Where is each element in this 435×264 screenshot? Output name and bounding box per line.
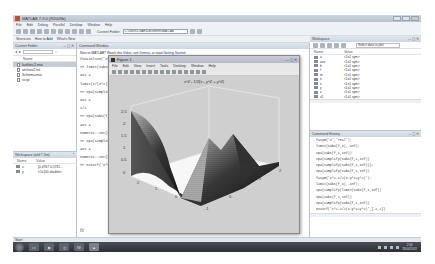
fig-menu-insert[interactable]: Insert <box>146 64 155 68</box>
file-item[interactable]: scrpt <box>13 77 76 82</box>
word-taskbar-icon[interactable]: W <box>74 243 84 251</box>
figure-window[interactable]: Figure 1 — ◻ ✕ File Edit View Insert Too… <box>108 55 300 234</box>
cut-icon[interactable] <box>30 29 35 34</box>
panel-controls[interactable]: → ◻ ✕ <box>408 132 419 136</box>
power-icon[interactable] <box>396 246 399 249</box>
surface-plot[interactable]: x^2 - 1/2(x - y^2 + y^2) <box>109 76 299 233</box>
profiler-icon[interactable] <box>79 29 84 34</box>
zoom-out-icon[interactable] <box>148 70 152 74</box>
pan-icon[interactable] <box>154 70 158 74</box>
fig-menu-file[interactable]: File <box>112 64 118 68</box>
print-icon[interactable] <box>130 70 134 74</box>
shortcut-how-to-add[interactable]: How to Add <box>35 37 53 41</box>
search-icon[interactable]: ⌕ <box>55 50 57 54</box>
column-value[interactable]: Value <box>36 159 45 163</box>
fig-menu-view[interactable]: View <box>134 64 142 68</box>
menu-edit[interactable]: Edit <box>27 23 33 27</box>
new-figure-icon[interactable] <box>112 70 116 74</box>
variable-value: <1x1 sym> <box>344 68 360 72</box>
browser-taskbar-icon[interactable]: ◎ <box>59 243 69 251</box>
open-icon[interactable] <box>118 70 122 74</box>
open-variable-icon[interactable] <box>320 43 325 48</box>
plot-select-dropdown[interactable]: Select data to plot <box>356 43 400 48</box>
variable-name: n <box>320 77 322 81</box>
delete-variable-icon[interactable] <box>341 43 346 48</box>
data-cursor-icon[interactable] <box>166 70 170 74</box>
menu-window[interactable]: Window <box>88 23 100 27</box>
column-value[interactable]: Value <box>344 50 353 54</box>
show-plot-tools-icon[interactable] <box>202 70 206 74</box>
collapse-icon[interactable]: ⌃ <box>72 153 75 157</box>
menu-help[interactable]: Help <box>105 23 112 27</box>
fig-menu-window[interactable]: Window <box>191 64 203 68</box>
new-variable-icon[interactable] <box>313 43 318 48</box>
new-file-icon[interactable] <box>16 29 21 34</box>
undo-icon[interactable] <box>51 29 56 34</box>
network-icon[interactable] <box>384 246 387 249</box>
brush-icon[interactable] <box>172 70 176 74</box>
history-scrollbar[interactable] <box>310 213 421 217</box>
zoom-in-icon[interactable] <box>142 70 146 74</box>
colorbar-icon[interactable] <box>184 70 188 74</box>
figure-title: Figure 1 <box>117 57 132 62</box>
maximize-button[interactable] <box>402 16 410 21</box>
legend-icon[interactable] <box>190 70 194 74</box>
fig-menu-desktop[interactable]: Desktop <box>173 64 186 68</box>
fig-menu-tools[interactable]: Tools <box>160 64 168 68</box>
edit-plot-icon[interactable] <box>136 70 140 74</box>
system-clock[interactable]: 2:04 28/04/2011 <box>402 243 417 251</box>
copy-icon[interactable] <box>37 29 42 34</box>
notification-icon[interactable] <box>378 246 381 249</box>
menu-parallel[interactable]: Parallel <box>53 23 65 27</box>
fig-menu-help[interactable]: Help <box>208 64 215 68</box>
function-browser-icon[interactable]: fx <box>80 227 84 233</box>
menu-desktop[interactable]: Desktop <box>70 23 83 27</box>
column-name[interactable]: Name <box>314 50 344 54</box>
open-file-icon[interactable] <box>23 29 28 34</box>
close-button[interactable] <box>411 16 419 21</box>
back-icon[interactable]: ◂ <box>15 50 17 54</box>
save-workspace-icon[interactable] <box>334 43 339 48</box>
variable-value: <1x1 sym> <box>344 77 360 81</box>
figure-title-bar[interactable]: Figure 1 — ◻ ✕ <box>109 56 299 63</box>
fig-menu-edit[interactable]: Edit <box>123 64 129 68</box>
matlab-taskbar-icon[interactable]: ▲ <box>89 243 99 251</box>
folder-path-field[interactable] <box>23 50 53 54</box>
media-player-taskbar-icon[interactable]: ▶ <box>44 243 54 251</box>
variable-row[interactable]: y <1x101 double> <box>13 169 77 174</box>
current-folder-input[interactable]: C:\Users\CSAR\Documents\MATLAB <box>123 29 188 34</box>
windows-start-orb[interactable] <box>15 243 24 252</box>
variable-value: <1x1 sym> <box>344 86 360 90</box>
panel-controls[interactable]: → ◻ ✕ <box>63 44 74 48</box>
rotate-3d-icon[interactable] <box>160 70 164 74</box>
system-tray: 2:04 28/04/2011 <box>378 243 417 251</box>
paste-icon[interactable] <box>44 29 49 34</box>
figure-window-controls[interactable]: — ◻ ✕ <box>286 58 297 62</box>
panel-controls[interactable]: → ◻ ✕ <box>408 37 419 41</box>
redo-icon[interactable] <box>58 29 63 34</box>
forward-icon[interactable]: ▸ <box>19 50 21 54</box>
workspace-scrollbar[interactable] <box>310 99 421 103</box>
minimize-button[interactable] <box>393 16 401 21</box>
variable-icon <box>16 170 20 173</box>
up-folder-icon[interactable] <box>197 29 202 34</box>
svg-text:2: 2 <box>137 180 140 185</box>
explorer-taskbar-icon[interactable]: ▭ <box>29 243 39 251</box>
menu-debug[interactable]: Debug <box>38 23 48 27</box>
volume-icon[interactable] <box>390 246 393 249</box>
save-icon[interactable] <box>124 70 128 74</box>
help-icon[interactable] <box>86 29 91 34</box>
shortcut-whats-new[interactable]: What's New <box>57 37 76 41</box>
import-data-icon[interactable] <box>327 43 332 48</box>
browse-folder-icon[interactable] <box>190 29 195 34</box>
menu-file[interactable]: File <box>16 23 22 27</box>
svg-text:2.5: 2.5 <box>121 109 127 114</box>
panel-title: Current Folder <box>15 44 38 48</box>
variable-value: <1x1 sym> <box>344 55 360 59</box>
column-name[interactable]: Name <box>17 159 26 163</box>
window-title: MATLAB 7.9.0 (R2009b) <box>22 16 66 21</box>
link-icon[interactable] <box>178 70 182 74</box>
guide-icon[interactable] <box>72 29 77 34</box>
simulink-icon[interactable] <box>65 29 70 34</box>
hide-plot-tools-icon[interactable] <box>196 70 200 74</box>
